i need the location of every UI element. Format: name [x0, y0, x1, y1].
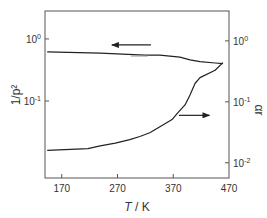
series-line-alpha-r [47, 63, 223, 151]
x-tick-label: 370 [165, 183, 182, 194]
right-y-tick-label: 10-2 [233, 157, 250, 169]
left-y-axis-title: 1/p² [9, 85, 23, 106]
x-tick-label: 170 [53, 183, 70, 194]
series-layer [47, 52, 223, 151]
left-y-tick-label: 100 [26, 33, 41, 45]
right-y-tick-label: 10-1 [233, 96, 250, 108]
x-tick-label: 270 [109, 183, 126, 194]
right-y-axis-title: αr [252, 105, 266, 116]
x-axis-title: T / K [124, 200, 149, 214]
plot-frame [45, 11, 229, 178]
right-y-tick-label: 100 [233, 35, 248, 47]
x-axis-ticks: 170270370470 [53, 174, 237, 194]
series-line-inverse-p-squared [47, 52, 223, 64]
x-axis-title-unit: / K [132, 200, 150, 214]
left-y-tick-label: 10-1 [24, 95, 41, 107]
x-tick-label: 470 [221, 183, 238, 194]
chart: 170270370470 10010-1 10010-110-2 1/p² αr… [0, 0, 267, 218]
